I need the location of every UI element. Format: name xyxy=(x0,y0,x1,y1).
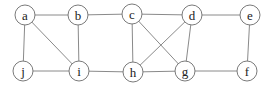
node-j: j xyxy=(13,61,33,81)
node-label: g xyxy=(182,64,189,79)
node-b: b xyxy=(68,5,88,25)
graph-diagram: abcdejihgf xyxy=(0,0,271,86)
nodes-layer: abcdejihgf xyxy=(13,4,260,82)
node-i: i xyxy=(69,61,89,81)
node-label: e xyxy=(247,8,253,23)
node-label: i xyxy=(77,64,81,79)
node-d: d xyxy=(182,5,202,25)
node-label: d xyxy=(189,8,196,23)
node-c: c xyxy=(122,4,142,24)
node-e: e xyxy=(240,5,260,25)
node-g: g xyxy=(175,61,195,81)
node-label: b xyxy=(75,8,82,23)
node-label: f xyxy=(245,64,250,79)
node-label: a xyxy=(22,8,28,23)
node-a: a xyxy=(15,5,35,25)
node-label: c xyxy=(129,7,135,22)
node-h: h xyxy=(123,62,143,82)
node-label: h xyxy=(130,65,137,80)
node-f: f xyxy=(237,61,257,81)
node-label: j xyxy=(20,64,25,79)
edge-c-g xyxy=(132,14,185,71)
edge-a-i xyxy=(25,15,79,71)
